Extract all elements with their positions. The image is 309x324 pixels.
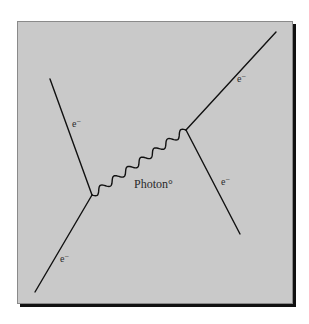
- electron-label-top-right: e−: [237, 72, 246, 84]
- feynman-diagram: [0, 0, 309, 324]
- electron-label-top-left: e−: [72, 117, 81, 129]
- electron-line-top-right: [186, 32, 276, 130]
- electron-line-bottom-left: [35, 195, 92, 292]
- electron-label-bottom-right: e−: [221, 175, 230, 187]
- electron-line-top-left: [50, 79, 92, 195]
- photon-label: Photon°: [134, 177, 173, 192]
- electron-label-bottom-left: e−: [60, 252, 69, 264]
- electron-line-bottom-right: [186, 130, 240, 234]
